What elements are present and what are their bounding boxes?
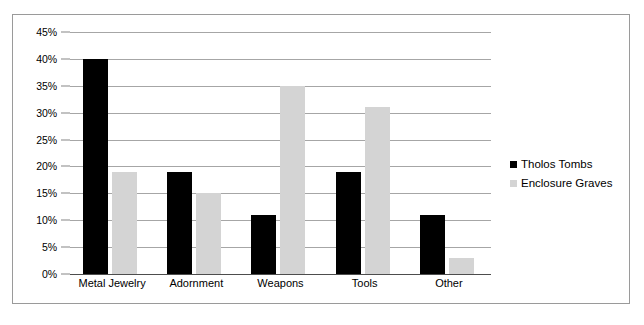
x-axis-tick-label: Tools bbox=[323, 277, 407, 289]
y-axis-tick-mark bbox=[61, 32, 70, 33]
y-axis-tick-label: 30% bbox=[36, 107, 57, 119]
y-axis-tick-mark bbox=[61, 247, 70, 248]
bar bbox=[336, 172, 361, 274]
y-axis-tick-mark bbox=[61, 139, 70, 140]
y-axis-tick-mark bbox=[61, 166, 70, 167]
bar-group bbox=[407, 32, 491, 274]
bar-group bbox=[70, 32, 154, 274]
bar bbox=[280, 86, 305, 274]
y-axis-tick-label: 40% bbox=[36, 53, 57, 65]
legend-swatch-icon bbox=[510, 161, 517, 168]
bar bbox=[112, 172, 137, 274]
x-axis-tick-label: Weapons bbox=[238, 277, 322, 289]
bar bbox=[167, 172, 192, 274]
bars-layer bbox=[70, 32, 491, 274]
bar-group bbox=[238, 32, 322, 274]
bar-group bbox=[323, 32, 407, 274]
y-axis-tick-label: 15% bbox=[36, 187, 57, 199]
y-axis-tick-mark bbox=[61, 58, 70, 59]
bar-group bbox=[154, 32, 238, 274]
legend-item[interactable]: Tholos Tombs bbox=[510, 155, 628, 174]
legend-item-label: Tholos Tombs bbox=[521, 159, 592, 171]
figure-caption bbox=[14, 310, 624, 324]
y-axis-tick-label: 45% bbox=[36, 26, 57, 38]
x-axis-tick-label: Metal Jewelry bbox=[70, 277, 154, 289]
x-axis: Metal JewelryAdornmentWeaponsToolsOther bbox=[70, 277, 491, 297]
bar bbox=[449, 258, 474, 274]
y-axis-tick-label: 5% bbox=[42, 241, 57, 253]
y-axis-tick-label: 25% bbox=[36, 134, 57, 146]
x-axis-tick-label: Adornment bbox=[154, 277, 238, 289]
bar bbox=[420, 215, 445, 274]
y-axis-tick-mark bbox=[61, 85, 70, 86]
x-axis-tick-label: Other bbox=[407, 277, 491, 289]
y-axis-tick-label: 20% bbox=[36, 160, 57, 172]
y-axis-tick-label: 10% bbox=[36, 214, 57, 226]
gridline bbox=[70, 274, 491, 275]
y-axis-tick-mark bbox=[61, 274, 70, 275]
y-axis-tick-mark bbox=[61, 220, 70, 221]
bar bbox=[196, 193, 221, 274]
bar bbox=[251, 215, 276, 274]
y-axis-tick-mark bbox=[61, 193, 70, 194]
legend-item[interactable]: Enclosure Graves bbox=[510, 174, 628, 193]
y-axis-tick-label: 0% bbox=[42, 268, 57, 280]
chart-legend: Tholos TombsEnclosure Graves bbox=[510, 155, 628, 193]
legend-swatch-icon bbox=[510, 180, 517, 187]
legend-item-label: Enclosure Graves bbox=[521, 178, 612, 190]
plot-area bbox=[70, 32, 491, 274]
chart-frame: 0%5%10%15%20%25%30%35%40%45% Metal Jewel… bbox=[12, 14, 630, 304]
y-axis-tick-label: 35% bbox=[36, 80, 57, 92]
bar bbox=[83, 59, 108, 274]
bar bbox=[365, 107, 390, 274]
y-axis-tick-mark bbox=[61, 112, 70, 113]
y-axis: 0%5%10%15%20%25%30%35%40%45% bbox=[13, 15, 70, 291]
